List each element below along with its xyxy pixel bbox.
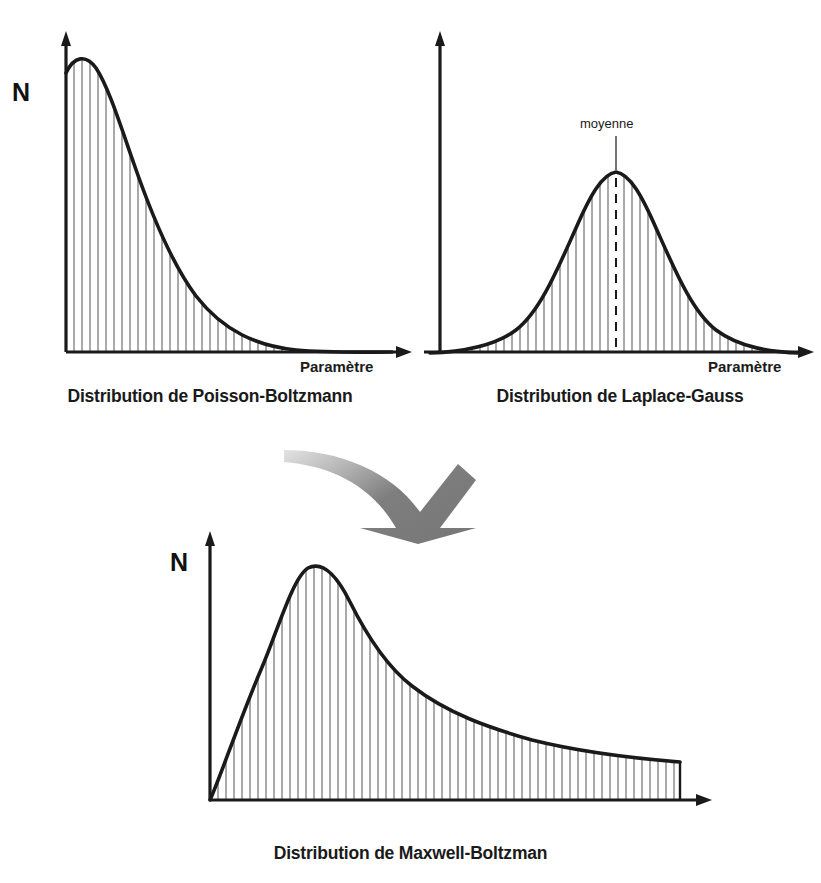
y-axis-arrowhead bbox=[61, 31, 71, 46]
chart-poisson-plot bbox=[0, 28, 420, 368]
hatch-fill bbox=[218, 528, 674, 828]
y-axis-label: N bbox=[12, 80, 30, 105]
distributions-figure: N Paramètre Distribution de Poisson-Bolt… bbox=[0, 0, 821, 883]
x-axis-label: Paramètre bbox=[300, 358, 373, 375]
x-axis-label: Paramètre bbox=[708, 358, 781, 375]
chart-gauss-plot bbox=[420, 28, 820, 368]
chart-poisson-boltzmann: N Paramètre bbox=[0, 28, 420, 368]
y-axis-arrowhead bbox=[435, 31, 445, 46]
caption-laplace-gauss: Distribution de Laplace-Gauss bbox=[420, 386, 820, 407]
chart-maxwell-boltzman: N bbox=[180, 528, 720, 828]
mean-label: moyenne bbox=[580, 116, 633, 131]
hatch-fill bbox=[464, 28, 776, 368]
y-axis-label: N bbox=[170, 550, 188, 575]
chart-maxwell-plot bbox=[180, 528, 720, 828]
poisson-curve bbox=[66, 59, 392, 352]
chart-laplace-gauss: moyenne Paramètre bbox=[420, 28, 820, 368]
caption-maxwell-boltzman: Distribution de Maxwell-Boltzman bbox=[0, 843, 821, 864]
y-axis-arrowhead bbox=[205, 531, 215, 546]
x-axis-arrowhead bbox=[798, 346, 814, 358]
x-axis-arrowhead bbox=[396, 346, 412, 358]
hatch-fill bbox=[74, 28, 386, 368]
x-axis-arrowhead bbox=[696, 794, 712, 806]
caption-poisson-boltzmann: Distribution de Poisson-Boltzmann bbox=[0, 386, 420, 407]
